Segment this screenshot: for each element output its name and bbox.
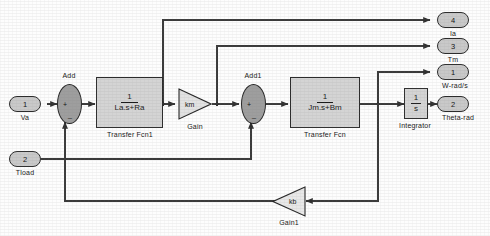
gain-km-triangle [178,88,212,120]
transfer-fcn-numerator: 1 [317,93,333,103]
sum-add-sign-bottom: _ [68,112,72,118]
gain-km-block[interactable]: km [178,88,212,120]
output-port-tm-number: 3 [451,42,455,51]
transfer-fcn-caption: Transfer Fcn [304,131,346,139]
transfer-fcn-denominator: Jm.s+Bm [308,103,342,112]
output-port-ia[interactable]: 4 [437,12,469,28]
output-port-tm[interactable]: 3 [437,38,469,54]
integrator-caption: Integrator [399,122,431,130]
output-port-omega-number: 1 [451,68,455,77]
input-port-va[interactable]: 1 [9,96,41,112]
transfer-fcn1-denominator: La.s+Ra [114,103,144,112]
output-port-omega-label: W-rad/s [442,82,468,90]
sum-add-sign-left: + [63,102,67,108]
integrator-numerator: 1 [411,94,421,104]
sum-add1-sign-left: + [247,102,251,108]
gain-kb-symbol: kb [289,198,296,205]
gain-km-caption: Gain [187,123,203,131]
integrator-block[interactable]: 1 s [404,88,428,119]
output-port-omega[interactable]: 1 [437,64,469,80]
sum-block-add[interactable]: + _ [57,84,82,124]
sum-add1-sign-bottom: _ [252,112,256,118]
input-port-va-label: Va [21,114,29,122]
block-diagram-canvas: + _ Add 1 La.s+Ra Transfer Fcn1 km Gain … [0,0,490,236]
input-port-va-number: 1 [23,100,27,109]
output-port-theta[interactable]: 2 [437,96,469,112]
sum-add-label: Add [62,72,75,80]
input-port-tload[interactable]: 2 [9,151,41,167]
output-port-theta-number: 2 [451,100,455,109]
sum-add1-label: Add1 [244,72,261,80]
input-port-tload-number: 2 [23,155,27,164]
transfer-fcn-block[interactable]: 1 Jm.s+Bm [290,77,360,128]
transfer-fcn1-numerator: 1 [121,93,137,103]
wire-kb-to-add [65,122,276,201]
output-port-tm-label: Tm [448,56,459,64]
transfer-fcn1-block[interactable]: 1 La.s+Ra [96,77,163,128]
junction-tm [215,102,218,105]
output-port-ia-label: Ia [450,30,456,38]
gain-kb-block[interactable]: kb [272,186,306,217]
sum-block-add1[interactable]: + _ [241,84,266,124]
gain-km-symbol: km [185,101,194,108]
gain-kb-caption: Gain1 [279,219,299,227]
transfer-fcn1-caption: Transfer Fcn1 [107,131,153,139]
output-port-theta-label: Theta-rad [442,114,474,122]
input-port-tload-label: Tload [16,169,35,177]
integrator-denominator: s [414,104,418,113]
output-port-ia-number: 4 [451,16,455,25]
